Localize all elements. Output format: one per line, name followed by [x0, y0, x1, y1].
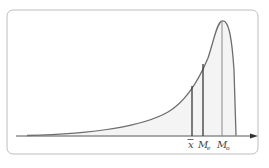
- skewed-distribution-diagram: x M e M o: [0, 0, 269, 168]
- svg-text:o: o: [226, 144, 230, 151]
- svg-text:e: e: [207, 144, 211, 151]
- mean-label: x: [188, 139, 195, 150]
- svg-text:x: x: [188, 139, 194, 150]
